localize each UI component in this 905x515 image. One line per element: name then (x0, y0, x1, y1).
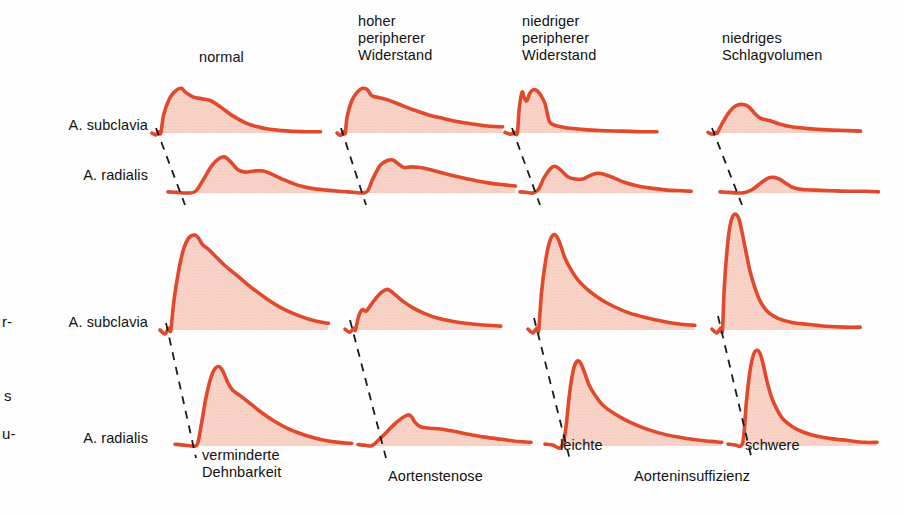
column-title-schlagvolumen-line2: Schlagvolumen (722, 47, 822, 65)
column-title-dehnbarkeit-line1: verminderte (202, 447, 280, 465)
column-title-hoher-widerstand-line2: peripherer (358, 30, 425, 48)
edge-text-fragment: s (4, 387, 12, 405)
column-title-niedriger-widerstand-line2: peripherer (522, 30, 589, 48)
edge-text-fragment: u- (2, 425, 16, 443)
column-title-niedriger-widerstand-line3: Widerstand (522, 47, 596, 65)
inline-label-leichte: leichte (560, 437, 603, 455)
column-title-dehnbarkeit-line2: Dehnbarkeit (202, 464, 281, 482)
column-title-normal: normal (199, 49, 244, 67)
column-title-aorteninsuffizienz: Aorteninsuffizienz (634, 468, 750, 486)
column-title-schlagvolumen-line1: niedriges (722, 30, 782, 48)
column-title-niedriger-widerstand-line1: niedriger (522, 13, 579, 31)
row-label-subclavia-bottom: A. subclavia (30, 314, 148, 332)
row-label-radialis-bottom: A. radialis (30, 430, 148, 448)
column-title-aortenstenose: Aortenstenose (388, 468, 483, 486)
row-label-subclavia-top: A. subclavia (30, 117, 148, 135)
edge-text-fragment: r- (2, 313, 12, 331)
column-title-hoher-widerstand-line1: hoher (358, 13, 396, 31)
row-label-radialis-top: A. radialis (30, 167, 148, 185)
inline-label-schwere: schwere (745, 437, 800, 455)
column-title-hoher-widerstand-line3: Widerstand (358, 47, 432, 65)
